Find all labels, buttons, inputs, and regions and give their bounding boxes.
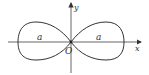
lemniscate-diagram: a a O y x [0, 0, 149, 75]
x-axis-label: x [135, 44, 140, 53]
diagram-canvas: a a O y x [0, 0, 149, 75]
left-loop-curve [18, 22, 71, 60]
left-loop-label: a [37, 32, 42, 42]
origin-label: O [65, 46, 73, 56]
origin-point [70, 41, 73, 44]
y-axis-label: y [73, 3, 79, 12]
right-loop-label: a [96, 32, 101, 42]
